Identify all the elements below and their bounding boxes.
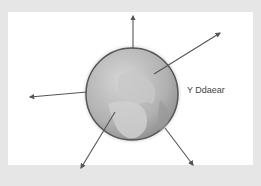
caption-text (2, 171, 260, 181)
arrow-left (30, 92, 87, 97)
arrow-up-right (154, 33, 220, 74)
earth-label: Y Ddaear (187, 85, 225, 95)
arrow-down-right (165, 128, 193, 165)
